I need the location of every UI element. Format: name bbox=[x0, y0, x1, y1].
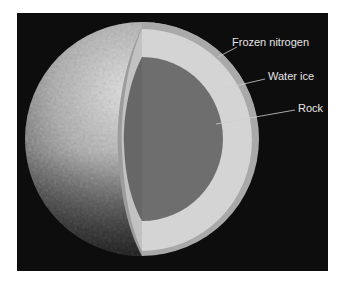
label-rock: Rock bbox=[298, 102, 324, 114]
label-frozen-nitrogen: Frozen nitrogen bbox=[232, 36, 309, 48]
label-water-ice: Water ice bbox=[268, 70, 314, 82]
cutaway-section bbox=[118, 22, 259, 256]
pluto-cutaway-diagram: Frozen nitrogen Water ice Rock bbox=[0, 0, 346, 287]
frozen-nitrogen-leader-line bbox=[218, 47, 237, 57]
